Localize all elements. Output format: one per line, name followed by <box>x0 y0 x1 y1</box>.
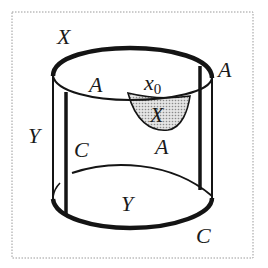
label-x0-subscript: 0 <box>154 81 162 97</box>
label-c-left: C <box>74 139 89 161</box>
top-ellipse-back <box>53 48 212 78</box>
label-x0-base: x <box>144 70 154 95</box>
label-y-bottom: Y <box>121 193 133 215</box>
label-c-bottom-right: C <box>196 225 211 247</box>
label-x0: x0 <box>144 72 161 97</box>
cylinder-diagram: X A x0 A X Y C A Y C <box>0 0 268 268</box>
label-a-top-left: A <box>89 74 102 96</box>
label-x-top: X <box>57 26 70 48</box>
label-x-cup: X <box>150 104 163 126</box>
bottom-ellipse-back <box>72 165 212 196</box>
label-a-right: A <box>218 59 231 81</box>
label-a-cup-bottom: A <box>155 136 168 158</box>
label-y-left: Y <box>28 125 40 147</box>
bottom-ellipse-left-stub <box>53 183 60 197</box>
